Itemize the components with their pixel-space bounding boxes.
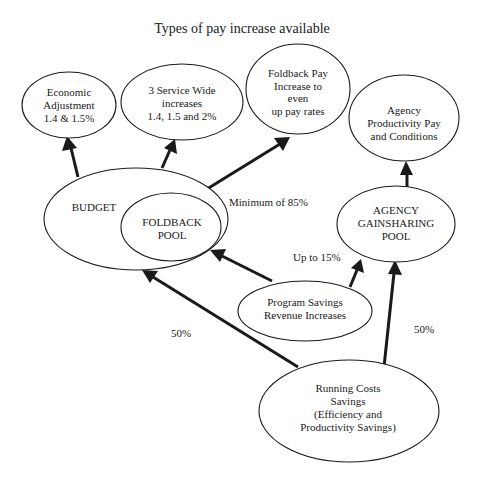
node-agency-gainsharing-pool: AGENCY GAINSHARING POOL	[337, 186, 455, 262]
svg-text:Productivity Savings): Productivity Savings)	[300, 421, 396, 434]
edge-label-minimum-85: Minimum of 85%	[229, 196, 308, 208]
edge-gainsharing-to-agency-productivity	[400, 161, 413, 187]
svg-text:GAINSHARING: GAINSHARING	[358, 217, 434, 229]
node-program-savings: Program Savings Revenue Increases	[238, 281, 372, 341]
svg-text:POOL: POOL	[382, 230, 411, 242]
svg-text:POOL: POOL	[158, 229, 187, 241]
edge-label-up-to-15: Up to 15%	[293, 251, 341, 263]
edge-program-savings-to-foldback-pool	[210, 249, 272, 281]
svg-text:Agency: Agency	[387, 104, 422, 116]
svg-text:Program Savings: Program Savings	[267, 296, 342, 308]
node-foldback-pay-increase: Foldback Pay Increase to even up pay rat…	[246, 44, 350, 134]
arrowhead-icon	[274, 137, 290, 151]
node-economic-adjustment: Economic Adjustment 1.4 & 1.5%	[22, 72, 116, 138]
node-agency-productivity-pay: Agency Productivity Pay and Conditions	[349, 75, 459, 161]
svg-text:3 Service Wide: 3 Service Wide	[148, 84, 215, 96]
svg-text:increases: increases	[162, 97, 202, 109]
svg-text:Foldback Pay: Foldback Pay	[268, 67, 329, 79]
svg-text:BUDGET: BUDGET	[72, 201, 117, 213]
svg-text:Increase to: Increase to	[274, 80, 322, 92]
pay-increase-diagram: Types of pay increase available Economic…	[0, 0, 480, 486]
svg-text:FOLDBACK: FOLDBACK	[142, 216, 201, 228]
svg-text:1.4, 1.5 and 2%: 1.4, 1.5 and 2%	[147, 110, 216, 122]
svg-text:(Efficiency and: (Efficiency and	[314, 408, 382, 421]
edge-running-costs-to-gainsharing	[384, 260, 402, 367]
arrowhead-icon	[400, 161, 413, 175]
svg-text:Running Costs: Running Costs	[315, 382, 380, 394]
diagram-title: Types of pay increase available	[154, 21, 330, 36]
edge-budget-to-foldback-pay	[207, 137, 290, 189]
arrowhead-icon	[142, 270, 158, 283]
edge-budget-to-service-wide	[162, 139, 177, 168]
svg-text:Revenue Increases: Revenue Increases	[264, 309, 346, 321]
svg-text:Adjustment: Adjustment	[43, 99, 94, 111]
svg-text:AGENCY: AGENCY	[373, 204, 419, 216]
svg-text:even: even	[288, 92, 309, 104]
svg-text:Productivity Pay: Productivity Pay	[367, 117, 441, 129]
svg-text:1.4 & 1.5%: 1.4 & 1.5%	[44, 112, 95, 124]
edge-program-savings-to-gainsharing	[350, 259, 364, 287]
edge-label-left-50: 50%	[171, 327, 191, 339]
node-running-costs-savings: Running Costs Savings (Efficiency and Pr…	[259, 360, 439, 462]
svg-text:up pay rates: up pay rates	[271, 105, 324, 117]
edge-label-right-50: 50%	[414, 323, 434, 335]
svg-text:and Conditions: and Conditions	[371, 130, 438, 142]
svg-text:Economic: Economic	[47, 86, 92, 98]
node-service-wide-increases: 3 Service Wide increases 1.4, 1.5 and 2%	[121, 64, 243, 140]
svg-text:Savings: Savings	[331, 395, 366, 407]
edge-budget-to-economic-adjustment	[62, 136, 78, 177]
